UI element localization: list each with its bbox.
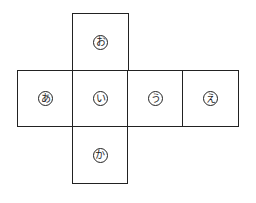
face-label: あ (38, 91, 53, 106)
face-label: え (203, 91, 218, 106)
face-i: い (72, 70, 129, 127)
face-label: か (93, 148, 108, 163)
face-label: い (93, 91, 108, 106)
face-u: う (127, 70, 184, 127)
face-e: え (182, 70, 239, 127)
face-o: お (72, 13, 129, 71)
face-label: う (148, 91, 163, 106)
face-label: お (93, 35, 108, 50)
face-a: あ (17, 70, 74, 127)
face-ka: か (72, 126, 128, 184)
